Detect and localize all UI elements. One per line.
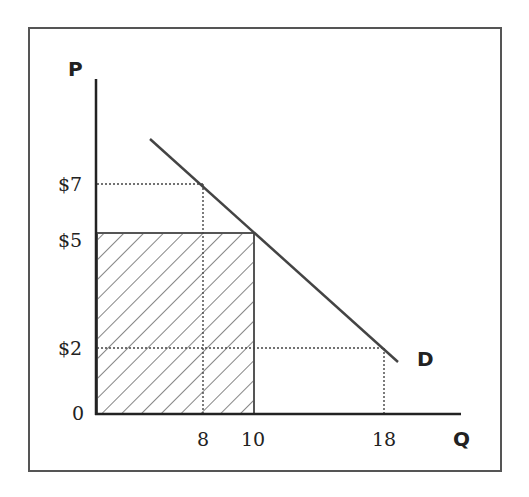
y-axis-label: P (68, 57, 83, 81)
demand-chart: P Q D $7 $5 $2 0 8 10 18 (0, 0, 529, 497)
x-tick-18: 18 (372, 428, 396, 450)
y-tick-0: 0 (72, 402, 84, 424)
y-tick-5: $5 (58, 229, 82, 251)
revenue-area (97, 233, 254, 414)
y-tick-2: $2 (58, 337, 82, 359)
x-tick-10: 10 (241, 428, 265, 450)
x-tick-8: 8 (197, 428, 209, 450)
x-axis-label: Q (453, 427, 470, 451)
y-tick-7: $7 (58, 173, 82, 195)
curve-label: D (417, 347, 434, 371)
